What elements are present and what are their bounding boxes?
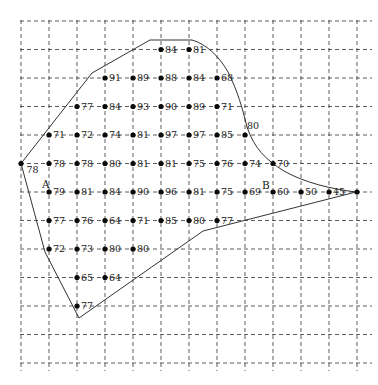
data-point <box>270 189 275 194</box>
data-point <box>298 189 303 194</box>
data-point-label: 84 <box>165 44 177 55</box>
data-point <box>214 189 219 194</box>
data-point-label: 89 <box>193 101 205 112</box>
data-point <box>46 218 51 223</box>
data-point-label: 77 <box>221 215 233 226</box>
traverse-marker-b: B <box>262 179 270 191</box>
data-point <box>102 275 107 280</box>
data-point <box>74 246 79 251</box>
data-point-label: 71 <box>221 101 233 112</box>
data-point-label: 81 <box>137 129 149 140</box>
data-point-label: 80 <box>109 158 121 169</box>
data-point <box>46 246 51 251</box>
data-point-label: 80 <box>109 243 121 254</box>
data-point-label: 96 <box>165 186 177 197</box>
data-point <box>18 161 23 166</box>
data-point-label: 75 <box>193 158 205 169</box>
data-point <box>74 303 79 308</box>
data-point-label: 78 <box>53 158 65 169</box>
data-point-label: 97 <box>193 129 205 140</box>
data-point-label: 80 <box>193 215 205 226</box>
figure-page: 8481918988846877849390897171727481979785… <box>0 0 378 385</box>
data-point <box>102 218 107 223</box>
data-point-label: 77 <box>81 300 93 311</box>
data-point-label: 84 <box>193 72 205 83</box>
data-point <box>102 246 107 251</box>
data-point <box>214 132 219 137</box>
data-point <box>326 189 331 194</box>
data-point <box>186 161 191 166</box>
data-point-label: 89 <box>137 72 149 83</box>
data-point <box>242 132 247 137</box>
data-point <box>186 104 191 109</box>
data-point <box>158 132 163 137</box>
data-point <box>186 132 191 137</box>
data-point <box>214 218 219 223</box>
data-point <box>186 218 191 223</box>
data-point-label: 80 <box>137 243 149 254</box>
data-point-label: 45 <box>333 186 345 197</box>
data-point <box>158 104 163 109</box>
data-point-label: 80 <box>247 120 259 131</box>
data-point <box>270 161 275 166</box>
data-point-label: 74 <box>249 158 261 169</box>
data-point-label: 81 <box>193 44 205 55</box>
data-point <box>102 189 107 194</box>
data-point <box>158 189 163 194</box>
data-point-label: 85 <box>165 215 177 226</box>
data-point <box>242 189 247 194</box>
data-point <box>130 218 135 223</box>
data-point <box>130 75 135 80</box>
data-point <box>46 161 51 166</box>
data-point-label: 69 <box>249 186 261 197</box>
boundary-outline <box>21 40 356 318</box>
data-point-label: 76 <box>81 215 93 226</box>
data-point <box>186 75 191 80</box>
data-point <box>214 75 219 80</box>
data-point-label: 50 <box>305 186 317 197</box>
data-point <box>158 218 163 223</box>
data-point <box>214 104 219 109</box>
data-point-label: 64 <box>109 215 121 226</box>
data-point <box>102 104 107 109</box>
data-point <box>242 161 247 166</box>
traverse-marker-a: A <box>41 178 50 190</box>
data-point-label: 97 <box>165 129 177 140</box>
sampled-grid-map-figure: 8481918988846877849390897171727481979785… <box>0 0 378 385</box>
data-point <box>214 161 219 166</box>
data-point <box>102 132 107 137</box>
data-point <box>74 161 79 166</box>
data-point <box>74 132 79 137</box>
data-point-label: 90 <box>165 101 177 112</box>
data-point-label: 60 <box>277 186 289 197</box>
data-point-label: 74 <box>109 129 121 140</box>
data-point <box>102 161 107 166</box>
data-point-label: 81 <box>193 186 205 197</box>
data-point <box>102 75 107 80</box>
data-point-label: 71 <box>137 215 149 226</box>
data-point-label: 79 <box>53 186 65 197</box>
data-point <box>158 75 163 80</box>
data-point-label: 81 <box>81 186 93 197</box>
data-point <box>186 189 191 194</box>
data-point <box>186 47 191 52</box>
data-point <box>46 189 51 194</box>
data-point-label: 72 <box>81 129 93 140</box>
data-point-label: 64 <box>109 272 121 283</box>
data-point-label: 77 <box>53 215 65 226</box>
data-point-label: 81 <box>137 158 149 169</box>
data-point-label: 70 <box>277 158 289 169</box>
data-point-label: 78 <box>27 164 39 175</box>
data-point <box>130 104 135 109</box>
data-point <box>158 47 163 52</box>
data-point <box>74 275 79 280</box>
data-point-label: 88 <box>165 72 177 83</box>
data-point-label: 72 <box>53 243 65 254</box>
data-point-label: 76 <box>221 158 233 169</box>
data-point-label: 65 <box>81 272 93 283</box>
data-point-label: 68 <box>221 72 233 83</box>
data-point <box>46 132 51 137</box>
data-point-label: 84 <box>109 101 121 112</box>
data-point <box>158 161 163 166</box>
data-point-label: 71 <box>53 129 65 140</box>
